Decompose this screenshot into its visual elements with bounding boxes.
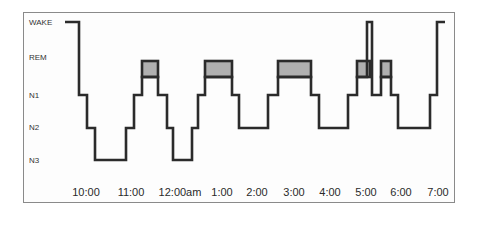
- x-tick-4-00: 4:00: [319, 186, 340, 198]
- x-tick-10-00: 10:00: [72, 186, 100, 198]
- rem-block-1: [142, 61, 158, 77]
- x-tick-5-00: 5:00: [355, 186, 376, 198]
- x-tick-7-00: 7:00: [427, 186, 448, 198]
- x-tick-3-00: 3:00: [283, 186, 304, 198]
- rem-block-5: [381, 61, 391, 77]
- x-tick-1-00: 1:00: [211, 186, 232, 198]
- x-tick-12-00am: 12:00am: [159, 186, 202, 198]
- rem-block-3: [278, 61, 311, 77]
- rem-blocks: [142, 61, 391, 77]
- sleep-stage-line: [65, 22, 445, 160]
- x-tick-2-00: 2:00: [246, 186, 267, 198]
- x-tick-6-00: 6:00: [390, 186, 411, 198]
- x-tick-11-00: 11:00: [118, 186, 145, 198]
- rem-block-2: [205, 61, 232, 77]
